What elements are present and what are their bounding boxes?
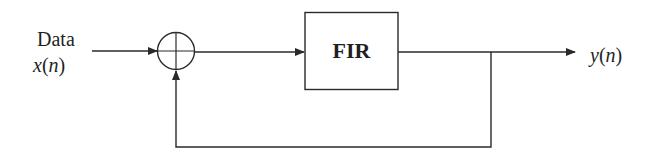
fir-block-label: FIR [305,12,398,89]
output-arg: n [606,44,616,66]
input-var: x [33,54,42,76]
input-label-signal: x(n) [33,54,65,77]
input-label-data: Data [37,28,75,51]
summing-junction [158,33,195,70]
input-open-paren: ( [42,54,49,76]
input-arg: n [49,54,59,76]
output-var: y [590,44,599,66]
output-open-paren: ( [599,44,606,66]
output-label-signal: y(n) [590,44,622,67]
input-close-paren: ) [59,54,66,76]
output-close-paren: ) [616,44,623,66]
